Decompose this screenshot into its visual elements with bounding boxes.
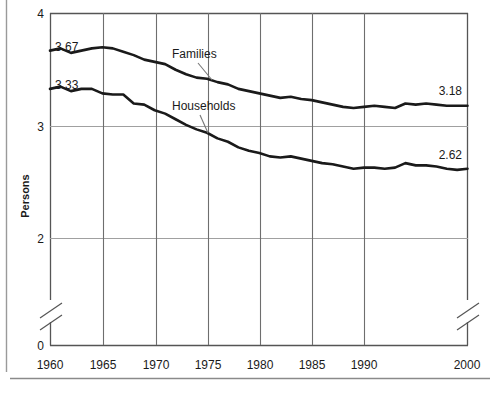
- families-start-value-label: 3.67: [55, 40, 79, 54]
- x-tick-label-1990: 1990: [351, 358, 378, 372]
- y-tick-label-3: 3: [37, 120, 44, 134]
- x-tick-label-1980: 1980: [247, 358, 274, 372]
- x-tick-label-1965: 1965: [90, 358, 117, 372]
- x-tick-label-1985: 1985: [299, 358, 326, 372]
- chart-background: [0, 0, 494, 393]
- x-tick-label-1960: 1960: [37, 358, 64, 372]
- y-tick-label-2: 2: [37, 232, 44, 246]
- y-axis-title: Persons: [19, 174, 31, 217]
- households-start-value-label: 3.33: [55, 78, 79, 92]
- x-tick-label-2000: 2000: [454, 358, 481, 372]
- chart-figure: 4 3 2 0 Persons 1960 1965 1970 1975 1980…: [0, 0, 494, 393]
- series-annotation-families: Families: [172, 47, 217, 61]
- persons-per-family-household-line-chart: 4 3 2 0 Persons 1960 1965 1970 1975 1980…: [0, 0, 494, 393]
- y-tick-label-4: 4: [37, 7, 44, 21]
- families-end-value-label: 3.18: [439, 84, 463, 98]
- x-tick-label-1975: 1975: [195, 358, 222, 372]
- y-tick-label-0: 0: [37, 339, 44, 353]
- households-end-value-label: 2.62: [439, 148, 463, 162]
- x-tick-label-1970: 1970: [143, 358, 170, 372]
- series-annotation-households: Households: [172, 99, 235, 113]
